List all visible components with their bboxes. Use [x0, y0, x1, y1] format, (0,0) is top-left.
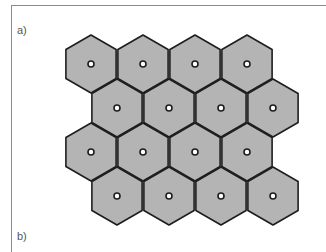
cell-site-dot: [244, 149, 250, 155]
cell-site-dot: [270, 105, 276, 111]
cell-site-dot: [244, 61, 250, 67]
cell-site-dot: [114, 105, 120, 111]
cell-site-dot: [270, 193, 276, 199]
cell-site-dot: [192, 149, 198, 155]
cell-site-dot: [218, 105, 224, 111]
cell-site-dot: [88, 149, 94, 155]
cell-site-dot: [140, 61, 146, 67]
cell-site-dot: [114, 193, 120, 199]
cell-site-dot: [166, 193, 172, 199]
cell-site-dot: [218, 193, 224, 199]
panel-label-a: a): [17, 25, 27, 36]
panel-label-b: b): [17, 231, 27, 242]
cell-site-dot: [192, 61, 198, 67]
hexagonal-cell-diagram: [0, 0, 326, 252]
cell-site-dot: [166, 105, 172, 111]
cell-site-dot: [140, 149, 146, 155]
cell-site-dot: [88, 61, 94, 67]
hex-cells: [66, 35, 298, 225]
